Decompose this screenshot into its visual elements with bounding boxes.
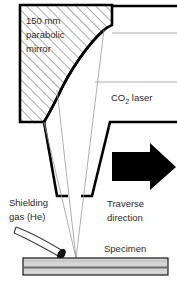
beam-edge-inner — [57, 90, 76, 258]
co2-laser-label-main: CO — [111, 92, 125, 103]
beam-edge-right — [76, 30, 104, 258]
specimen-workpiece — [23, 258, 168, 275]
gas-tube-upper-edge — [16, 227, 63, 251]
co2-laser-label: CO2 laser — [111, 92, 152, 105]
laser-welding-schematic: 150 mm parabolic mirror CO2 laser Shield… — [0, 0, 177, 292]
incoming-laser-rays — [95, 33, 177, 82]
traverse-direction-arrow — [112, 143, 176, 190]
traverse-label-line2: direction — [107, 212, 143, 223]
beam-edge-left — [44, 122, 76, 258]
arrow-shape — [112, 143, 176, 190]
specimen-label: Specimen — [104, 243, 146, 254]
gas-tube-back-cap — [14, 227, 16, 233]
mirror-label-line3: mirror — [26, 43, 51, 54]
shielding-gas-label-line2: gas (He) — [9, 211, 45, 222]
traverse-label-line1: Traverse — [107, 198, 144, 209]
shielding-gas-tube — [14, 227, 67, 260]
mirror-label-line1: 150 mm — [26, 15, 60, 26]
shielding-gas-label-line1: Shielding — [9, 197, 48, 208]
co2-laser-label-tail: laser — [129, 92, 152, 103]
nozzle-left-wall — [44, 122, 68, 196]
mirror-label-line2: parabolic — [26, 29, 65, 40]
schematic-canvas: 150 mm parabolic mirror CO2 laser Shield… — [0, 0, 177, 292]
